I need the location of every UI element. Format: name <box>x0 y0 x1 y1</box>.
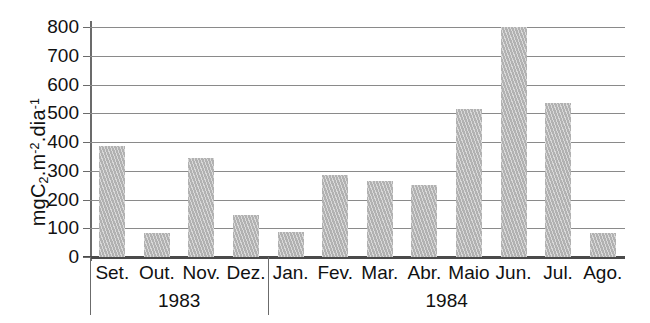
y-tick-100 <box>83 228 90 229</box>
y-tick-300 <box>83 171 90 172</box>
bar <box>233 215 259 257</box>
y-tick-label-200: 200 <box>47 189 79 211</box>
bar <box>188 158 214 257</box>
y-tick-label-500: 500 <box>47 102 79 124</box>
y-tick-label-400: 400 <box>47 131 79 153</box>
bar <box>144 233 170 257</box>
bar <box>501 27 527 257</box>
gridline-600 <box>90 85 625 86</box>
x-axis-label: Set. <box>95 262 129 284</box>
y-tick-label-600: 600 <box>47 74 79 96</box>
y-tick-200 <box>83 200 90 201</box>
x-axis-label: Abr. <box>407 262 441 284</box>
x-axis-label: Maio <box>448 262 489 284</box>
y-tick-label-100: 100 <box>47 217 79 239</box>
bar <box>545 103 571 257</box>
bar <box>456 109 482 257</box>
gridline-700 <box>90 56 625 57</box>
year-group-divider <box>90 257 91 315</box>
x-axis-label: Jun. <box>496 262 532 284</box>
x-axis-label: Dez. <box>226 262 265 284</box>
year-label: 1983 <box>158 290 200 312</box>
x-axis-label: Fev. <box>317 262 353 284</box>
x-axis-label: Out. <box>139 262 175 284</box>
x-axis-label: Jul. <box>543 262 573 284</box>
bar <box>411 185 437 257</box>
y-axis-title-sup-minus2: -2 <box>28 142 42 153</box>
plot-area: 0100200300400500600700800 <box>90 27 625 257</box>
x-axis-label: Jan. <box>273 262 309 284</box>
bar <box>367 181 393 257</box>
x-axis-label: Ago. <box>583 262 622 284</box>
y-axis-title-mid: .m <box>27 154 49 177</box>
y-tick-600 <box>83 85 90 86</box>
bar <box>99 146 125 257</box>
gridline-800 <box>90 27 625 28</box>
x-axis-label: Mar. <box>361 262 398 284</box>
y-tick-label-800: 800 <box>47 16 79 38</box>
y-tick-0 <box>83 257 90 258</box>
y-tick-400 <box>83 142 90 143</box>
y-tick-800 <box>83 27 90 28</box>
y-tick-label-700: 700 <box>47 45 79 67</box>
bar <box>590 233 616 257</box>
x-axis-label: Nov. <box>183 262 221 284</box>
y-tick-label-0: 0 <box>68 246 79 268</box>
y-axis-title-prefix: mgC <box>27 183 49 226</box>
bar <box>278 232 304 257</box>
y-tick-label-300: 300 <box>47 160 79 182</box>
gridline-0 <box>90 257 625 259</box>
year-group-divider <box>268 257 269 315</box>
year-label: 1984 <box>426 290 468 312</box>
y-tick-700 <box>83 56 90 57</box>
bar <box>322 175 348 257</box>
y-axis-title-sup-minus1: -1 <box>28 98 42 109</box>
bar-chart-figure: mgC2.m-2.dia-1 0100200300400500600700800… <box>0 0 650 323</box>
y-tick-500 <box>83 113 90 114</box>
y-axis-title-mid2: .dia <box>27 109 49 142</box>
